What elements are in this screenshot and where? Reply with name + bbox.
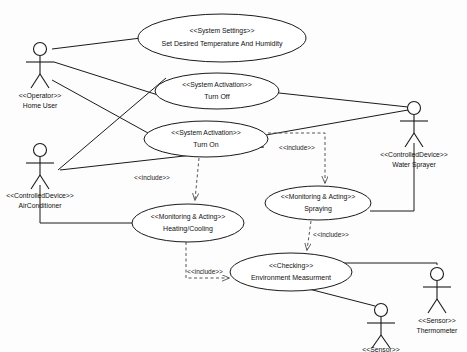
use-case-ellipse[interactable] <box>144 121 268 157</box>
actor-head-icon <box>375 304 388 317</box>
use-case-ellipse[interactable] <box>132 204 244 242</box>
use-case-name: Spraying <box>304 205 332 213</box>
assoc-home-user-to-turn-on <box>52 80 148 133</box>
use-case-stereotype: <<System Activation>> <box>182 81 252 89</box>
include-spraying-to-environment <box>307 221 311 250</box>
include-label-heating-environment: <<include>> <box>187 268 223 275</box>
use-case-stereotype: <<Monitoring & Acting>> <box>281 193 355 201</box>
actor-humidity-sensor[interactable]: <<Sensor>> <box>362 304 399 352</box>
actor-leg-right <box>437 299 446 313</box>
actor-name: Home User <box>23 102 58 109</box>
use-case-name: Set Desired Temperature And Humidity <box>162 40 283 48</box>
uml-use-case-diagram: <<System Settings>> Set Desired Temperat… <box>0 0 467 352</box>
include-label-turn-on-spraying: <<include>> <box>279 144 315 151</box>
assoc-home-user-to-settings <box>52 38 141 49</box>
actor-stereotype: <<Sensor>> <box>418 317 455 324</box>
use-case-name: Turn Off <box>204 93 229 100</box>
use-case-stereotype: <<Checking>> <box>269 262 313 270</box>
actor-leg-left <box>31 175 40 189</box>
actor-leg-right <box>414 133 423 147</box>
use-case-stereotype: <<System Activation>> <box>171 129 241 137</box>
use-case-turn-on[interactable]: <<System Activation>> Turn On <box>144 121 268 157</box>
diagram-canvas: <<System Settings>> Set Desired Temperat… <box>0 0 467 352</box>
actor-leg-right <box>40 175 49 189</box>
use-case-spraying[interactable]: <<Monitoring & Acting>> Spraying <box>265 186 371 220</box>
actor-home-user[interactable]: <<Operator>> Home User <box>19 43 62 109</box>
actor-stereotype: <<ControlledDevice>> <box>6 192 74 199</box>
actor-leg-left <box>31 74 40 88</box>
actor-stereotype: <<Sensor>> <box>362 346 399 352</box>
actor-leg-left <box>428 299 437 313</box>
actor-head-icon <box>34 144 47 157</box>
actor-name: Thermometer <box>417 327 459 334</box>
use-case-name: Turn On <box>193 141 219 148</box>
actor-head-icon <box>34 43 47 56</box>
use-case-ellipse[interactable] <box>230 253 352 291</box>
use-case-ellipse[interactable] <box>138 14 306 62</box>
actor-leg-left <box>405 133 414 147</box>
use-case-ellipse[interactable] <box>265 186 371 220</box>
use-case-set-temperature-humidity[interactable]: <<System Settings>> Set Desired Temperat… <box>138 14 306 62</box>
assoc-humidity-sensor-to-environment <box>305 288 375 306</box>
use-case-environment-measurment[interactable]: <<Checking>> Environment Measurment <box>230 253 352 291</box>
include-turn-on-to-heating-cooling <box>195 158 199 200</box>
actor-name: AirConditioner <box>18 202 62 209</box>
use-case-ellipse[interactable] <box>155 73 279 109</box>
include-label-spraying-environment: <<include>> <box>313 231 349 238</box>
actor-stereotype: <<Operator>> <box>19 92 62 100</box>
assoc-water-sprayer-to-turn-off <box>279 93 408 107</box>
actor-head-icon <box>408 102 421 115</box>
actor-stereotype: <<ControlledDevice>> <box>380 151 448 158</box>
use-case-name: Environment Measurment <box>251 274 331 281</box>
include-turn-on-to-spraying <box>268 133 325 183</box>
assoc-water-sprayer-to-turn-on <box>266 110 408 135</box>
use-case-turn-off[interactable]: <<System Activation>> Turn Off <box>155 73 279 109</box>
use-case-stereotype: <<Monitoring & Acting>> <box>151 213 225 221</box>
actor-head-icon <box>431 268 444 281</box>
use-case-name: Heating/Cooling <box>163 225 213 233</box>
actor-leg-right <box>40 74 49 88</box>
use-case-stereotype: <<System Settings>> <box>190 27 255 35</box>
use-case-heating-cooling[interactable]: <<Monitoring & Acting>> Heating/Cooling <box>132 204 244 242</box>
actor-thermometer[interactable]: <<Sensor>> Thermometer <box>417 268 459 334</box>
include-label-turn-on-heating: <<include>> <box>134 174 170 181</box>
actor-name: Water Sprayer <box>392 161 436 169</box>
